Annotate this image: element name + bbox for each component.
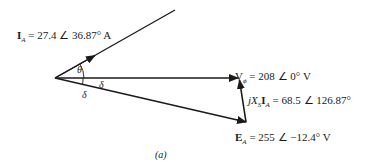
armature-current-label: IA = 27.4 ∠ 36.87° A xyxy=(17,30,111,44)
armature-current-arrowhead xyxy=(55,56,95,79)
delta-arc xyxy=(83,78,84,85)
reactance-drop-phasor xyxy=(240,80,247,122)
internal-voltage-phasor xyxy=(55,78,246,122)
figure-caption: (a) xyxy=(155,150,167,160)
phase-voltage-label: Vϕ = 208 ∠ 0° V xyxy=(235,71,311,85)
delta-upper-label: δ xyxy=(99,80,104,90)
theta-label: θ xyxy=(77,65,82,75)
delta-lower-label: δ xyxy=(82,90,87,100)
internal-voltage-label: EA = 255 ∠ −12.4° V xyxy=(235,132,331,146)
reactance-drop-label: jXSIA = 68.5 ∠ 126.87° xyxy=(248,95,351,109)
